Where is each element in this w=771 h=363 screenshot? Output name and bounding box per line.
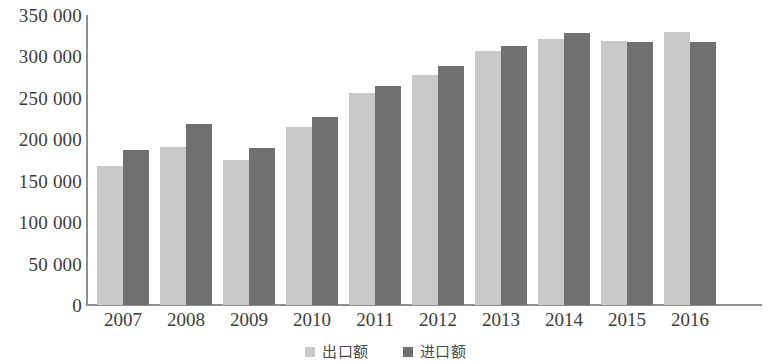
bar-chart: 050 000100 000150 000200 000250 000300 0… [0, 0, 771, 363]
bar-group [412, 15, 464, 305]
y-axis: 050 000100 000150 000200 000250 000300 0… [0, 0, 82, 363]
bar-export [349, 93, 375, 305]
bar-export [601, 41, 627, 305]
bar-export [223, 160, 249, 305]
bar-import [501, 46, 527, 305]
bar-import [186, 124, 212, 305]
plot-area [88, 15, 762, 305]
x-axis-tick-label: 2009 [216, 308, 282, 332]
bar-group [223, 15, 275, 305]
bar-group [601, 15, 653, 305]
bar-import [690, 42, 716, 305]
y-axis-tick-label: 50 000 [0, 255, 82, 274]
x-axis: 2007200820092010201120122013201420152016 [88, 308, 762, 336]
bar-export [286, 127, 312, 305]
bar-group [160, 15, 212, 305]
bar-export [664, 32, 690, 305]
y-axis-tick-label: 200 000 [0, 130, 82, 149]
bar-group [538, 15, 590, 305]
x-axis-tick-label: 2012 [405, 308, 471, 332]
legend-swatch-icon [403, 347, 413, 357]
legend-item[interactable]: 进口额 [403, 344, 467, 360]
y-axis-tick-label: 250 000 [0, 89, 82, 108]
legend-swatch-icon [305, 347, 315, 357]
bar-export [538, 39, 564, 305]
x-axis-tick-label: 2011 [342, 308, 408, 332]
y-axis-tick-label: 300 000 [0, 47, 82, 66]
bar-group [664, 15, 716, 305]
x-axis-tick-label: 2013 [468, 308, 534, 332]
bar-group [475, 15, 527, 305]
y-axis-tick-label: 150 000 [0, 172, 82, 191]
bar-import [438, 66, 464, 305]
bar-import [627, 42, 653, 305]
bar-import [123, 150, 149, 305]
bar-import [564, 33, 590, 305]
x-axis-tick-label: 2016 [657, 308, 723, 332]
bar-export [412, 75, 438, 305]
chart-legend: 出口额进口额 [0, 341, 771, 363]
bar-group [349, 15, 401, 305]
bar-import [375, 86, 401, 305]
bar-export [97, 166, 123, 305]
y-axis-tick-label: 0 [0, 296, 82, 315]
x-axis-tick-label: 2007 [90, 308, 156, 332]
x-axis-tick-label: 2008 [153, 308, 219, 332]
legend-label: 出口额 [322, 344, 369, 360]
legend-item[interactable]: 出口额 [305, 344, 369, 360]
legend-label: 进口额 [420, 344, 467, 360]
bar-export [160, 147, 186, 305]
x-axis-tick-label: 2010 [279, 308, 345, 332]
bar-group [286, 15, 338, 305]
bar-export [475, 51, 501, 305]
bar-import [249, 148, 275, 305]
x-axis-tick-label: 2014 [531, 308, 597, 332]
bar-import [312, 117, 338, 305]
y-axis-tick-label: 100 000 [0, 213, 82, 232]
y-axis-tick-label: 350 000 [0, 6, 82, 25]
bar-group [97, 15, 149, 305]
x-axis-tick-label: 2015 [594, 308, 660, 332]
